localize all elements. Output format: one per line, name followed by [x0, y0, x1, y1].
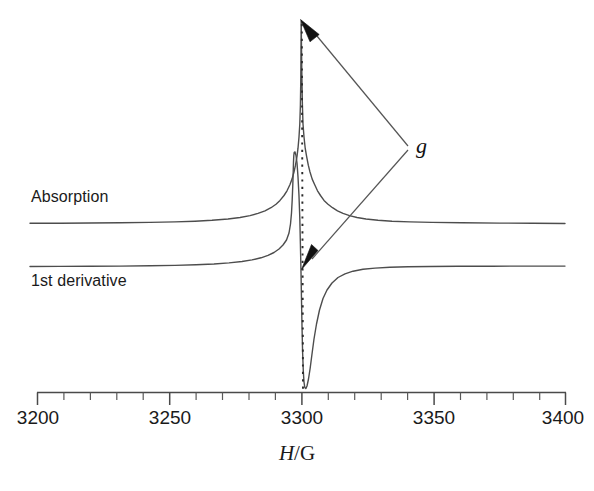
- x-axis-title: H/G: [279, 441, 315, 466]
- arrowhead-derivative-zero: [302, 245, 319, 270]
- derivative-curve-label: 1st derivative: [31, 272, 127, 290]
- x-tick-label-3250: 3250: [149, 407, 191, 429]
- g-arrow-to-absorption-max: [312, 30, 408, 146]
- x-tick-label-3300: 3300: [281, 407, 323, 429]
- absorption-curve: [30, 21, 565, 224]
- absorption-curve-label: Absorption: [31, 188, 109, 206]
- x-axis-title-symbol: H: [279, 441, 294, 465]
- x-tick-label-3400: 3400: [542, 407, 584, 429]
- derivative-curve: [30, 152, 565, 389]
- g-factor-label: g: [416, 133, 427, 159]
- x-tick-label-3350: 3350: [413, 407, 455, 429]
- x-axis-title-unit: /G: [294, 441, 315, 465]
- g-arrow-to-derivative-zero: [312, 150, 408, 259]
- arrowhead-absorption-max: [301, 20, 320, 42]
- epr-spectrum-figure: Absorption 1st derivative g 3200 3250 33…: [0, 0, 594, 491]
- x-tick-label-3200: 3200: [17, 407, 59, 429]
